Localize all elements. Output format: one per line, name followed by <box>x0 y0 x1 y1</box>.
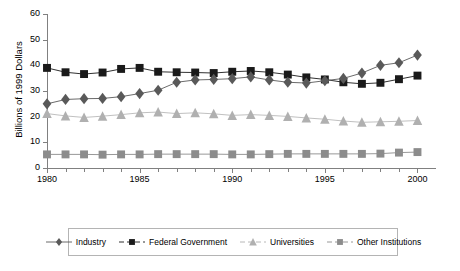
data-point <box>228 150 236 158</box>
data-point <box>284 150 292 158</box>
data-point <box>321 150 329 158</box>
data-point <box>154 150 162 158</box>
data-point <box>210 150 218 158</box>
data-point <box>61 94 70 105</box>
data-point <box>154 85 163 96</box>
legend-marker-diamond-icon <box>45 236 73 248</box>
data-point <box>247 150 255 158</box>
data-point <box>136 64 144 72</box>
data-point <box>302 150 310 158</box>
data-point <box>43 150 51 158</box>
data-point <box>43 64 51 72</box>
legend-label: Industry <box>76 237 106 247</box>
data-point <box>99 151 107 159</box>
legend-marker-square-icon <box>326 236 354 248</box>
data-point <box>80 93 89 104</box>
data-point <box>99 69 107 77</box>
data-point <box>376 79 384 87</box>
data-point <box>62 150 70 158</box>
legend-item-universities[interactable]: Universities <box>239 236 314 248</box>
chart-legend: IndustryFederal GovernmentUniversitiesOt… <box>68 228 398 256</box>
data-point <box>414 72 422 80</box>
legend-item-other-institutions[interactable]: Other Institutions <box>326 236 421 248</box>
data-point <box>265 150 273 158</box>
data-point <box>62 68 70 76</box>
data-point <box>135 88 144 99</box>
legend-label: Other Institutions <box>357 237 421 247</box>
series-universities <box>42 107 422 127</box>
data-point <box>173 150 181 158</box>
legend-marker-square-icon <box>118 236 146 248</box>
series-other-institutions <box>43 148 421 158</box>
data-point <box>358 80 366 88</box>
data-point <box>117 91 126 102</box>
data-point <box>172 77 181 88</box>
data-point <box>358 67 367 78</box>
data-point <box>414 148 422 156</box>
data-point <box>154 68 162 76</box>
data-point <box>80 70 88 78</box>
data-point <box>191 150 199 158</box>
legend-item-federal-government[interactable]: Federal Government <box>118 236 227 248</box>
data-point <box>136 150 144 158</box>
data-point <box>413 49 422 60</box>
chart-figure: Billions of 1999 Dollars 0102030405060 1… <box>0 0 460 271</box>
data-point <box>43 98 52 109</box>
data-point <box>80 150 88 158</box>
legend-marker-triangle-icon <box>239 236 267 248</box>
data-point <box>376 150 384 158</box>
series-industry <box>43 49 422 109</box>
data-point <box>395 75 403 83</box>
data-point <box>339 150 347 158</box>
data-point <box>395 57 404 68</box>
data-point <box>376 60 385 71</box>
data-point <box>358 150 366 158</box>
data-point <box>117 65 125 73</box>
legend-label: Universities <box>270 237 314 247</box>
data-point <box>98 93 107 104</box>
data-point <box>117 150 125 158</box>
data-point <box>42 109 52 119</box>
legend-item-industry[interactable]: Industry <box>45 236 106 248</box>
data-point <box>395 149 403 157</box>
data-point <box>173 68 181 76</box>
legend-label: Federal Government <box>149 237 227 247</box>
